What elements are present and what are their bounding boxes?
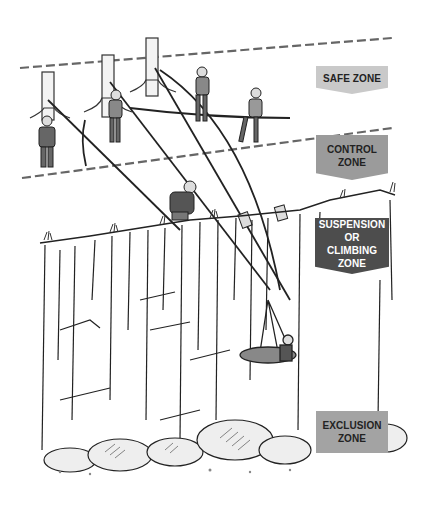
- stretcher-icon: [240, 300, 296, 363]
- pebbles: [59, 469, 291, 476]
- suspension-zone-label: SUSPENSION OR CLIMBING ZONE: [315, 218, 389, 274]
- tree-icons: [30, 38, 176, 120]
- edge-protector-icons: [238, 205, 288, 228]
- control-zone-label: CONTROL ZONE: [316, 135, 388, 180]
- exclusion-zone-label: EXCLUSION ZONE: [316, 411, 388, 453]
